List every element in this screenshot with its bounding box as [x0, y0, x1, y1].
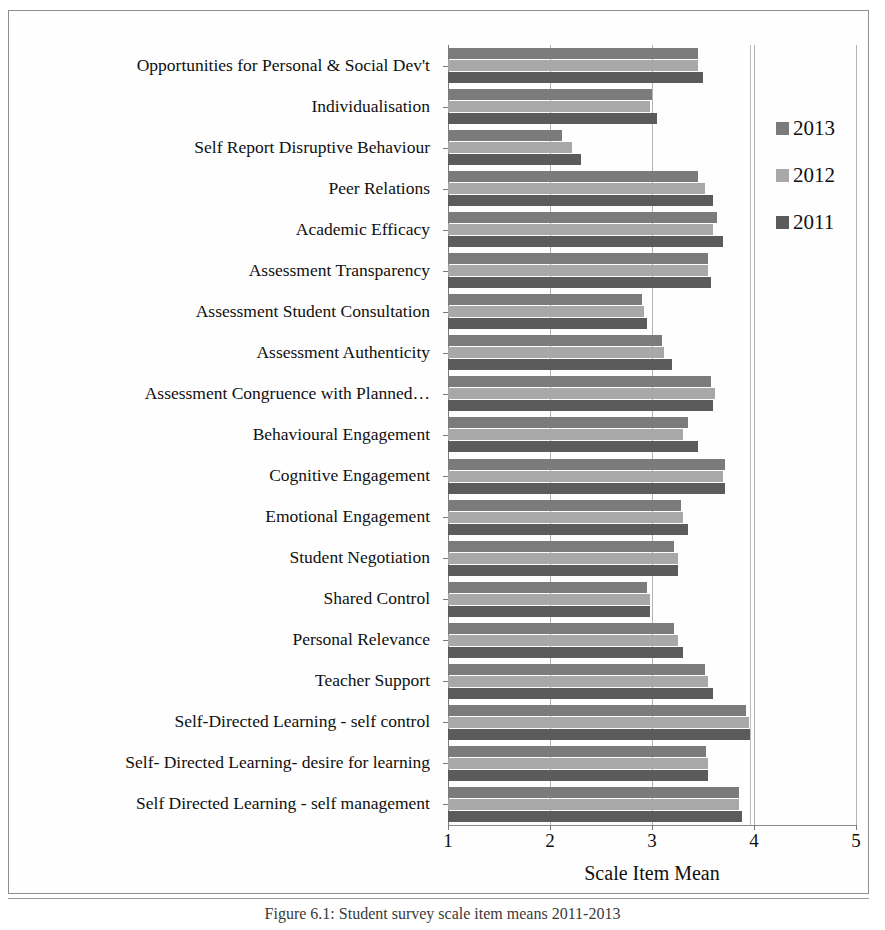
bar-group — [448, 45, 856, 86]
bar-2012 — [448, 717, 749, 728]
plot-right-border — [750, 45, 751, 825]
bar-2012 — [448, 101, 650, 112]
bar-2013 — [448, 664, 705, 675]
category-label: Academic Efficacy — [296, 220, 430, 239]
category-label: Assessment Congruence with Planned… — [145, 384, 430, 403]
legend-label: 2012 — [793, 165, 835, 186]
bar-group — [448, 702, 856, 743]
bar-2012 — [448, 758, 708, 769]
bar-group — [448, 414, 856, 455]
bar-group — [448, 497, 856, 538]
category-label: Individualisation — [311, 97, 430, 116]
bar-2011 — [448, 811, 742, 822]
bar-2011 — [448, 154, 581, 165]
category-label: Emotional Engagement — [265, 507, 430, 526]
bar-2011 — [448, 236, 723, 247]
bar-group — [448, 456, 856, 497]
category-label: Assessment Transparency — [249, 261, 430, 280]
bar-2011 — [448, 277, 711, 288]
bar-2013 — [448, 89, 652, 100]
x-axis-tick-labels: 12345 — [0, 830, 885, 864]
x-tick-label-4: 4 — [749, 830, 759, 852]
bar-group — [448, 538, 856, 579]
bar-group — [448, 291, 856, 332]
bar-2012 — [448, 183, 705, 194]
x-tick-label-3: 3 — [647, 830, 657, 852]
figure-caption: Figure 6.1: Student survey scale item me… — [0, 905, 885, 923]
bar-2012 — [448, 635, 678, 646]
bar-group — [448, 620, 856, 661]
bar-2013 — [448, 623, 674, 634]
bar-2012 — [448, 429, 683, 440]
bar-2011 — [448, 318, 647, 329]
bar-group — [448, 579, 856, 620]
bar-2012 — [448, 347, 664, 358]
bar-2013 — [448, 253, 708, 264]
bar-2013 — [448, 130, 562, 141]
bar-2011 — [448, 400, 713, 411]
bar-2011 — [448, 606, 650, 617]
legend-label: 2013 — [793, 118, 835, 139]
bar-2013 — [448, 48, 698, 59]
category-label: Assessment Authenticity — [256, 343, 430, 362]
gridline-5 — [856, 45, 857, 825]
legend-item-2013[interactable]: 2013 — [776, 118, 835, 139]
bar-2013 — [448, 500, 681, 511]
category-label: Shared Control — [324, 589, 430, 608]
bar-2013 — [448, 705, 746, 716]
bar-2012 — [448, 60, 698, 71]
legend-item-2012[interactable]: 2012 — [776, 165, 835, 186]
bar-2012 — [448, 676, 708, 687]
legend-item-2011[interactable]: 2011 — [776, 212, 835, 233]
bar-2013 — [448, 746, 706, 757]
bar-2011 — [448, 441, 698, 452]
bar-2013 — [448, 212, 717, 223]
bar-2012 — [448, 799, 739, 810]
legend-label: 2011 — [793, 212, 834, 233]
category-label: Teacher Support — [315, 671, 430, 690]
category-label: Self- Directed Learning- desire for lear… — [125, 753, 430, 772]
legend-swatch-icon — [776, 169, 789, 182]
category-axis-labels: Opportunities for Personal & Social Dev'… — [0, 45, 438, 825]
bar-2011 — [448, 483, 725, 494]
bar-group — [448, 661, 856, 702]
bar-2013 — [448, 459, 725, 470]
bar-group — [448, 743, 856, 784]
bar-2013 — [448, 541, 674, 552]
bar-2012 — [448, 388, 715, 399]
bar-2011 — [448, 770, 708, 781]
bar-2012 — [448, 142, 572, 153]
bar-2012 — [448, 265, 708, 276]
bar-2013 — [448, 335, 662, 346]
bar-chart: Opportunities for Personal & Social Dev'… — [0, 0, 885, 900]
bar-2011 — [448, 195, 713, 206]
bar-2011 — [448, 359, 672, 370]
category-label: Peer Relations — [328, 179, 430, 198]
x-tick-label-5: 5 — [851, 830, 861, 852]
bar-2012 — [448, 471, 723, 482]
bar-2011 — [448, 565, 678, 576]
category-label: Cognitive Engagement — [269, 466, 430, 485]
caption-rule — [8, 898, 869, 899]
bar-2011 — [448, 72, 703, 83]
bar-2013 — [448, 294, 642, 305]
bar-2013 — [448, 376, 711, 387]
category-label: Self-Directed Learning - self control — [174, 712, 430, 731]
legend-swatch-icon — [776, 216, 789, 229]
bar-2012 — [448, 512, 683, 523]
bar-group — [448, 332, 856, 373]
bar-2012 — [448, 306, 644, 317]
bar-2012 — [448, 553, 678, 564]
category-label: Assessment Student Consultation — [196, 302, 430, 321]
x-tick-label-1: 1 — [443, 830, 453, 852]
x-axis-title: Scale Item Mean — [448, 862, 856, 885]
bar-2013 — [448, 171, 698, 182]
category-label: Self Report Disruptive Behaviour — [194, 138, 430, 157]
category-label: Self Directed Learning - self management — [136, 794, 430, 813]
category-label: Opportunities for Personal & Social Dev'… — [137, 56, 430, 75]
chart-legend: 201320122011 — [776, 118, 835, 233]
bar-2013 — [448, 582, 647, 593]
bar-2011 — [448, 688, 713, 699]
bar-2012 — [448, 224, 713, 235]
category-label: Personal Relevance — [292, 630, 430, 649]
